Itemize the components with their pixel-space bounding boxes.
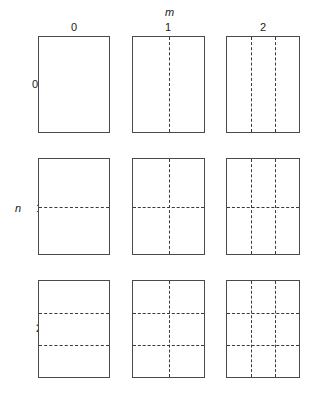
horizontal-divider xyxy=(39,207,109,208)
column-tick-1: 1 xyxy=(148,22,188,33)
cell-n2-m2 xyxy=(226,280,300,378)
vertical-divider xyxy=(275,281,276,377)
horizontal-divider xyxy=(133,313,204,314)
cell-n2-m1 xyxy=(132,280,205,378)
vertical-divider xyxy=(169,281,170,377)
horizontal-divider xyxy=(227,313,299,314)
vertical-divider xyxy=(251,281,252,377)
horizontal-divider xyxy=(133,345,204,346)
row-tick-0: 0 xyxy=(22,79,38,90)
cell-n1-m0 xyxy=(38,158,110,255)
subdivision-grid-figure: m 0 1 2 n 0 1 2 xyxy=(0,0,314,394)
horizontal-divider xyxy=(39,345,109,346)
column-tick-0: 0 xyxy=(54,22,94,33)
horizontal-divider xyxy=(227,345,299,346)
vertical-divider xyxy=(169,37,170,132)
cell-n0-m1 xyxy=(132,36,205,133)
column-tick-2: 2 xyxy=(243,22,283,33)
cell-n1-m2 xyxy=(226,158,300,255)
vertical-divider xyxy=(251,37,252,132)
horizontal-divider xyxy=(227,207,299,208)
column-variable-label: m xyxy=(165,7,174,18)
vertical-divider xyxy=(275,37,276,132)
cell-n0-m2 xyxy=(226,36,300,133)
horizontal-divider xyxy=(39,313,109,314)
cell-n2-m0 xyxy=(38,280,110,378)
horizontal-divider xyxy=(133,207,204,208)
cell-n0-m0 xyxy=(38,36,110,133)
row-variable-label: n xyxy=(15,203,21,214)
cell-n1-m1 xyxy=(132,158,205,255)
